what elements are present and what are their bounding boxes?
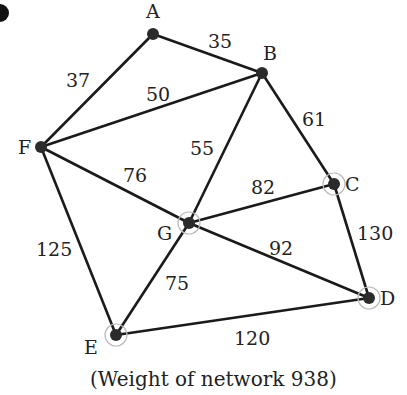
edge-FG [41,147,189,223]
edges-group [41,34,369,335]
edge-weight-BC: 61 [302,108,326,130]
node-label-F: F [18,136,31,158]
node-label-D: D [380,287,395,309]
caption: (Weight of network 938) [90,367,337,391]
node-label-E: E [84,336,98,358]
node-E [110,329,122,341]
edge-GD [189,223,369,298]
network-graph: ABCDEFG 353750556176821301259275120 (Wei… [0,0,407,395]
node-A [147,28,159,40]
corner-bullet [0,4,9,22]
edge-weight-FB: 50 [146,83,170,105]
edge-weight-AF: 37 [66,69,90,91]
edge-weight-FE: 125 [36,238,72,260]
node-label-C: C [345,173,360,195]
edge-AF [41,34,153,147]
edge-weight-BG: 55 [190,137,214,159]
node-label-A: A [145,0,160,22]
node-B [256,67,268,79]
edge-weight-GD: 92 [269,237,293,259]
edge-weight-ED: 120 [234,327,270,349]
node-C [328,178,340,190]
edge-weight-AB: 35 [208,30,232,52]
edge-weight-FG: 76 [123,164,147,186]
edge-weight-CD: 130 [357,222,393,244]
node-label-B: B [263,42,277,64]
edge-weight-GC: 82 [251,176,275,198]
node-label-G: G [157,222,172,244]
node-D [363,292,375,304]
node-F [35,141,47,153]
node-G [183,217,195,229]
edge-weight-GE: 75 [165,272,189,294]
